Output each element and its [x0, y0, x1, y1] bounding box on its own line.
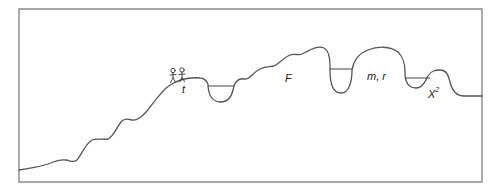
- terrain-curve: [19, 47, 482, 170]
- label-m-r: m, r: [367, 71, 386, 82]
- label-t: t: [182, 84, 185, 95]
- diagram-frame: [19, 9, 482, 182]
- landscape-diagram: [0, 0, 500, 193]
- label-chi-squared: X2: [428, 87, 439, 100]
- chi-exponent: 2: [435, 86, 439, 93]
- stick-figure-1: [170, 68, 176, 82]
- walking-figures-icon: [170, 68, 185, 83]
- label-F: F: [285, 73, 292, 84]
